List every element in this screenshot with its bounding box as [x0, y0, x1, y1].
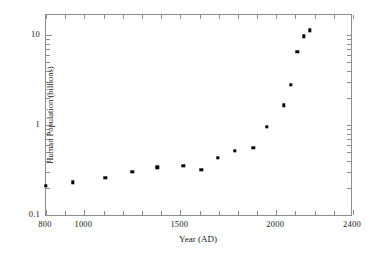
- x-axis-tick-top: [84, 15, 85, 19]
- x-axis-tick: [315, 211, 316, 215]
- y-axis-tick: [46, 62, 50, 63]
- x-axis-tick-top: [334, 15, 335, 19]
- x-axis-tick-top: [123, 15, 124, 19]
- y-axis-tick: [46, 44, 50, 45]
- y-axis-tick-right: [347, 55, 351, 56]
- data-point: [216, 156, 219, 159]
- x-axis-tick-label: 1000: [74, 219, 92, 229]
- y-axis-title-text: Human Population (billions): [45, 66, 55, 163]
- y-axis-tick-right: [347, 172, 351, 173]
- y-axis-tick-label: 10: [31, 29, 40, 39]
- x-axis-tick-top: [200, 15, 201, 19]
- y-axis-tick-right: [347, 62, 351, 63]
- y-axis-tick-right: [347, 82, 351, 83]
- x-axis-tick-label: 1500: [170, 219, 188, 229]
- x-axis-tick: [104, 211, 105, 215]
- data-point: [296, 50, 299, 53]
- x-axis-tick: [257, 211, 258, 215]
- data-point: [289, 83, 292, 86]
- y-axis-tick-right: [347, 39, 351, 40]
- x-axis-tick-label: 800: [38, 219, 51, 229]
- x-axis-tick: [123, 211, 124, 215]
- x-axis-tick-top: [180, 15, 181, 19]
- x-axis-tick: [219, 211, 220, 215]
- x-axis-tick: [180, 210, 181, 215]
- x-axis-title: Year (AD): [179, 234, 217, 244]
- x-axis-tick-top: [238, 15, 239, 19]
- y-axis-tick-right: [347, 98, 351, 99]
- x-axis-tick-top: [142, 15, 143, 19]
- y-axis-tick: [46, 215, 52, 216]
- y-axis-tick-label: 0.1: [29, 209, 40, 219]
- y-axis-tick-right: [347, 152, 351, 153]
- y-axis-tick-right: [347, 35, 351, 36]
- x-axis-tick: [65, 211, 66, 215]
- x-axis-tick-top: [104, 15, 105, 19]
- y-axis-tick-right: [347, 125, 351, 126]
- y-axis-tick: [46, 49, 50, 50]
- y-axis-tick-right: [347, 161, 351, 162]
- x-axis-tick-top: [353, 15, 354, 19]
- x-axis-tick-top: [257, 15, 258, 19]
- x-axis-tick-label: 2400: [343, 219, 361, 229]
- data-point: [302, 34, 305, 37]
- plot-frame: [45, 14, 352, 216]
- x-axis-tick-top: [65, 15, 66, 19]
- y-axis-tick-right: [347, 71, 351, 72]
- y-axis-tick-right: [347, 129, 351, 130]
- y-axis-tick: [46, 55, 50, 56]
- data-point: [71, 181, 74, 184]
- y-axis-tick: [46, 39, 50, 40]
- x-axis-tick-top: [276, 15, 277, 19]
- data-point: [131, 170, 134, 173]
- x-axis-tick-top: [46, 15, 47, 19]
- y-axis-tick-label: 1: [36, 119, 40, 129]
- y-axis-tick: [46, 188, 50, 189]
- data-point: [252, 146, 255, 149]
- x-axis-tick-top: [161, 15, 162, 19]
- y-axis-tick: [46, 35, 52, 36]
- data-point: [200, 168, 203, 171]
- y-axis-tick-right: [347, 139, 351, 140]
- data-point: [282, 104, 285, 107]
- x-axis-tick: [200, 211, 201, 215]
- x-axis-tick-top: [219, 15, 220, 19]
- y-axis-tick-right: [347, 134, 351, 135]
- y-axis-tick-right: [347, 215, 351, 216]
- x-axis-tick: [238, 211, 239, 215]
- x-axis-tick: [334, 211, 335, 215]
- x-axis-tick: [353, 210, 354, 215]
- chart-page: 8001000150020002400 1010.1 Year (AD) Hum…: [0, 0, 372, 256]
- y-axis-tick-right: [347, 145, 351, 146]
- data-point: [104, 176, 107, 179]
- x-axis-tick-label: 2000: [266, 219, 284, 229]
- x-axis-tick: [295, 211, 296, 215]
- data-point: [44, 184, 47, 187]
- y-axis-tick-right: [347, 44, 351, 45]
- x-axis-tick-top: [315, 15, 316, 19]
- data-point: [181, 164, 184, 167]
- x-axis-tick-top: [295, 15, 296, 19]
- x-axis-tick: [142, 211, 143, 215]
- y-axis-tick-right: [347, 49, 351, 50]
- y-axis-tick: [46, 172, 50, 173]
- data-point: [156, 165, 159, 168]
- data-point: [265, 125, 268, 128]
- data-point: [308, 29, 311, 32]
- y-axis-title: Human Population (billions): [45, 66, 55, 163]
- x-axis-tick: [84, 210, 85, 215]
- data-point: [233, 149, 236, 152]
- x-axis-tick: [161, 211, 162, 215]
- y-axis-tick-right: [347, 188, 351, 189]
- x-axis-tick: [276, 210, 277, 215]
